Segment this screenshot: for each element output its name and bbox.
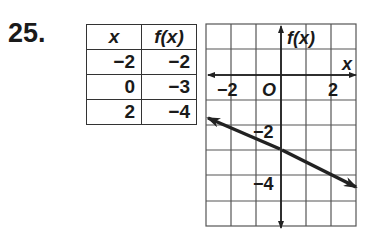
y-axis-label: f(x) bbox=[287, 28, 315, 48]
function-line bbox=[208, 118, 356, 187]
coordinate-graph: f(x) x O −2 2 −2 −4 bbox=[0, 0, 377, 240]
origin-label: O bbox=[262, 80, 276, 100]
x-tick-label: −2 bbox=[217, 80, 238, 100]
y-tick-label: −4 bbox=[253, 174, 274, 194]
y-tick-label: −2 bbox=[253, 122, 274, 142]
x-axis-label: x bbox=[341, 54, 353, 74]
x-tick-label: 2 bbox=[328, 80, 338, 100]
